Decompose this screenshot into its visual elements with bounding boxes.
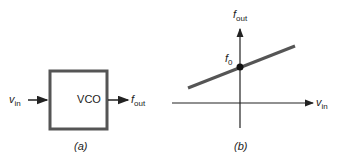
- intercept-label: f0: [225, 53, 233, 67]
- input-label: vin: [9, 94, 21, 108]
- caption-b: (b): [234, 141, 247, 152]
- caption-a: (a): [74, 141, 87, 152]
- diagram-canvas: [0, 0, 339, 161]
- y-axis-label: fout: [233, 9, 247, 23]
- x-axis-label: vin: [316, 97, 328, 111]
- output-label: fout: [131, 94, 145, 108]
- vco-label: VCO: [77, 94, 101, 105]
- intercept-point: [237, 64, 244, 71]
